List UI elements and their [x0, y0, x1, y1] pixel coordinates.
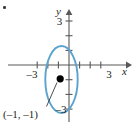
x-axis-label: x [121, 65, 127, 77]
bullet-marker-icon [3, 6, 6, 9]
center-point-label: (–1, –1) [3, 108, 38, 121]
axis-arrowheads [66, 9, 132, 68]
x-tick-label--3: –3 [26, 68, 39, 80]
y-tick-label-3: 3 [57, 15, 63, 27]
y-axis-arrow-icon [66, 9, 73, 15]
ellipse-graph-figure: y x 3 –3 –3 3 (–1, –1) [0, 0, 136, 126]
plot-canvas: y x 3 –3 –3 3 (–1, –1) [0, 0, 136, 126]
center-point-marker [57, 75, 64, 82]
y-tick-label--3: –3 [55, 103, 68, 115]
x-tick-label-3: 3 [106, 68, 112, 80]
